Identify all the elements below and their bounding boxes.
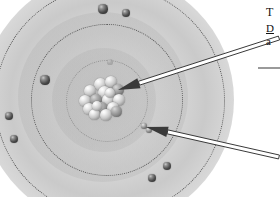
nucleus [78,76,126,121]
nucleon [105,88,115,98]
nucleon [92,101,102,111]
caption-title: T [266,6,280,19]
caption-term: D [266,22,280,35]
caption-block: T D a [266,6,280,48]
callout-arrow-shaft [138,36,279,85]
electron-middle-right [146,127,152,133]
electron-outer-left-upper [5,112,14,121]
electron-outer-top-left [98,4,107,13]
callout-electron [146,127,279,159]
electron-outer-mid-left [40,75,49,84]
callout-arrow-shaft [167,130,279,159]
electron-inner-faint [107,59,112,64]
electron-outer-bottom-right [163,162,171,170]
nucleon [111,106,122,117]
electron-outer-bottom [148,174,156,182]
electron-outer-left-lower [10,135,19,144]
caption-body: a [266,35,280,48]
electron-outer-top-right [122,9,131,18]
atom-structure-diagram: T D a [0,0,280,197]
callout-nucleus [118,36,280,90]
callout-arrow-layer [0,0,280,197]
caption-divider-rule [258,67,280,69]
